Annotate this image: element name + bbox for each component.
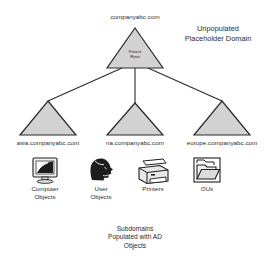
placeholder-annotation-line2: Placeholder Domain: [168, 34, 268, 44]
object-label-computer-line1: Computer: [25, 185, 65, 192]
computer-monitor-icon: [33, 158, 57, 183]
object-item-computer: Computer Objects: [25, 184, 65, 201]
object-label-computer-line2: Objects: [25, 193, 65, 200]
subdomain-triangle-na: [107, 103, 163, 135]
object-label-user-line2: Objects: [81, 193, 121, 200]
object-label-printers-line1: Printers: [133, 185, 173, 192]
forest-root-triangle: [107, 28, 163, 68]
connector-right: [148, 68, 222, 101]
ad-forest-diagram: Forest Root companyabc.com Unpopulated P…: [0, 0, 270, 270]
user-head-icon: [90, 159, 113, 181]
connector-left: [48, 68, 122, 101]
object-label-user-line1: User: [81, 185, 121, 192]
object-label-ous-line1: OUs: [187, 185, 227, 192]
folder-icon: [194, 158, 220, 182]
subdomain-label-asia: asia.companyabc.com: [0, 139, 96, 147]
placeholder-annotation: Unpopulated Placeholder Domain: [168, 24, 268, 43]
bottom-caption: Subdomains Populated with AD Objects: [0, 225, 270, 250]
root-domain-label: companyabc.com: [85, 13, 185, 21]
connector-lines: [48, 68, 222, 103]
subdomain-triangle-asia: [20, 101, 76, 135]
subdomain-label-europe: europe.companyabc.com: [174, 139, 270, 147]
subdomain-triangle-europe: [194, 101, 250, 135]
bottom-caption-line2: Populated with AD: [0, 233, 270, 241]
object-item-ous: OUs: [187, 184, 227, 193]
object-item-user: User Objects: [81, 184, 121, 201]
bottom-caption-line3: Objects: [0, 242, 270, 250]
printer-icon: [139, 159, 168, 184]
subdomain-label-na: na.companyabc.com: [87, 139, 183, 147]
object-item-printers: Printers: [133, 184, 173, 193]
forest-root-label-line2: Root: [120, 54, 150, 59]
forest-root-label: Forest Root: [120, 49, 150, 59]
placeholder-annotation-line1: Unpopulated: [168, 24, 268, 34]
bottom-caption-line1: Subdomains: [0, 225, 270, 233]
